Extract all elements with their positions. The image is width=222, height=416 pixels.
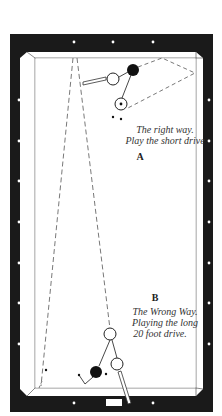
section-a-caption-line1: The right way. [120, 124, 210, 135]
diamond-icon [208, 262, 211, 265]
diamond-icon [18, 180, 21, 183]
rail-marker [106, 399, 122, 406]
diamond-icon [18, 302, 21, 305]
cue-ball-icon [107, 73, 119, 85]
diamond-icon [18, 262, 21, 265]
diamond-icon [18, 99, 21, 102]
object-ball-icon [127, 64, 139, 76]
diamond-icon [208, 343, 211, 346]
cue-ball-icon [111, 358, 123, 370]
position-dot-icon [120, 118, 122, 120]
section-b-caption-line3: 20 foot drive. [115, 328, 205, 339]
position-dot-icon [112, 116, 114, 118]
diamond-icon [152, 41, 155, 44]
diamond-icon [152, 402, 155, 405]
position-dot-icon [45, 369, 47, 371]
section-b-caption-line2: Playing the long [115, 317, 215, 328]
diamond-icon [112, 41, 115, 44]
diamond-icon [18, 343, 21, 346]
diamond-icon [208, 99, 211, 102]
diamond-icon [18, 221, 21, 224]
diamond-icon [208, 221, 211, 224]
section-b-label: B [140, 292, 170, 303]
diamond-icon [73, 41, 76, 44]
diamond-icon [208, 302, 211, 305]
diamond-icon [208, 180, 211, 183]
section-b-caption-line1: The Wrong Way. [115, 306, 215, 317]
diamond-icon [18, 140, 21, 143]
section-a-label: A [125, 151, 155, 162]
section-a-caption-line2: Play the short drive [115, 135, 215, 146]
object-ball-icon [90, 366, 102, 378]
diamond-icon [73, 402, 76, 405]
billiards-table-diagram [0, 0, 222, 416]
position-dot-icon [105, 373, 107, 375]
position-dot-icon [78, 374, 80, 376]
